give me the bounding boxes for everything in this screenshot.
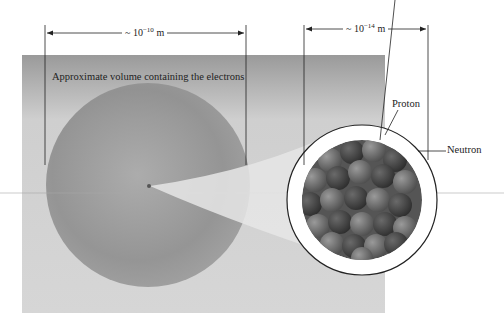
proton-label: Proton xyxy=(392,98,420,109)
nucleus-size-label: ~ 10−14 m xyxy=(343,22,388,34)
atom-size-label: ~ 10−10 m xyxy=(122,26,167,38)
atom-diagram xyxy=(0,0,504,320)
electron-volume-label: Approximate volume containing the electr… xyxy=(52,71,244,82)
nucleus-dot xyxy=(147,184,151,188)
neutron-label: Neutron xyxy=(447,144,481,155)
